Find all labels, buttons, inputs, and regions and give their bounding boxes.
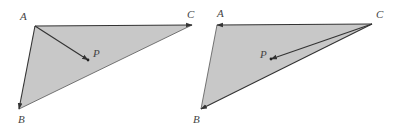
right-label-b: B [193,113,200,125]
left-label-p: P [92,47,100,59]
vector-diagrams: A C B P A C B P [0,0,397,127]
left-label-c: C [187,8,195,20]
right-label-c: C [376,8,384,20]
left-label-b: B [18,113,25,125]
right-triangle-diagram: A C B P [193,7,384,125]
right-label-a: A [216,7,224,19]
left-label-a: A [19,10,27,22]
left-point-p-dot [87,59,90,62]
left-triangle-diagram: A C B P [18,8,195,125]
right-label-p: P [259,48,267,60]
right-point-p-dot [270,58,273,61]
